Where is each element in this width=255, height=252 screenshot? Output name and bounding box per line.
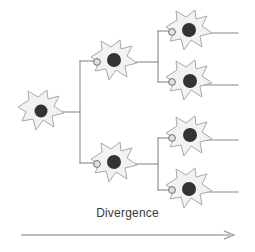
nucleus-dot-icon [182, 23, 196, 37]
nucleus-dot-icon [35, 105, 48, 118]
cell-upper-b[interactable] [166, 60, 212, 100]
nucleus-dot-icon [183, 74, 197, 88]
cell-upper-a[interactable] [166, 10, 212, 50]
divergence-axis-arrow [21, 231, 234, 239]
nucleus-dot-icon [107, 53, 121, 67]
cell-lower[interactable] [91, 142, 137, 182]
branch-node-icon [169, 29, 176, 36]
cell-upper[interactable] [91, 40, 137, 80]
branch-node-icon [94, 161, 101, 168]
nucleus-dot-icon [107, 155, 121, 169]
cell-root[interactable] [18, 90, 64, 130]
nucleus-dot-icon [182, 182, 196, 196]
branch-node-icon [169, 79, 176, 86]
axis-label-divergence: Divergence [0, 206, 255, 220]
nucleus-dot-icon [183, 128, 197, 142]
branch-node-icon [169, 187, 176, 194]
branch-node-icon [169, 135, 176, 142]
diagram-canvas: Divergence [0, 0, 255, 252]
cell-lower-b[interactable] [166, 168, 212, 208]
cell-lower-a[interactable] [166, 116, 212, 156]
branch-node-icon [94, 59, 101, 66]
branch-lines [62, 31, 238, 192]
